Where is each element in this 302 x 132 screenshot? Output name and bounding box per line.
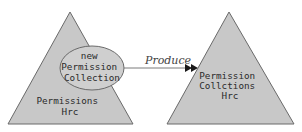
ellipse-label-line-1: new bbox=[81, 50, 98, 61]
diagram-canvas: Permissions Hrc new Permission Collectio… bbox=[0, 0, 302, 132]
produce-label: Produce bbox=[144, 54, 192, 67]
left-label-line-2: Hrc bbox=[62, 106, 79, 117]
right-label-line-3: Hrc bbox=[222, 90, 239, 101]
left-label-line-1: Permissions bbox=[36, 95, 98, 106]
ellipse-label-line-3: Collection bbox=[64, 72, 120, 83]
ellipse-label-line-2: Permission bbox=[61, 61, 117, 72]
